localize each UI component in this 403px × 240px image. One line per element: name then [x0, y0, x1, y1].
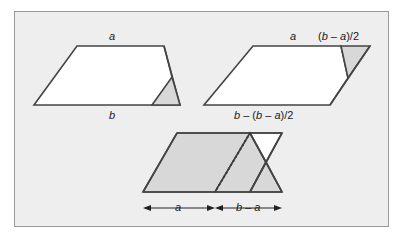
label-right-bottom: b – (b – a)/2: [234, 110, 293, 121]
left-trapezoid-group: [34, 46, 180, 105]
dim-arrowhead-bma-right: [274, 205, 282, 211]
label-left-top-a: a: [109, 31, 115, 42]
figure-root: a b a (b – a)/2 b – (b – a)/2 a b – a: [0, 0, 403, 240]
right-parallelogram-body: [204, 46, 348, 105]
label-dim-b-minus-a: b – a: [236, 202, 260, 213]
label-dim-a: a: [175, 202, 181, 213]
label-left-bottom-b: b: [109, 110, 115, 121]
dimension-arrows-group: [143, 205, 282, 211]
label-right-corner: (b – a)/2: [318, 31, 359, 42]
bottom-figure-group: [143, 133, 282, 192]
dim-arrowhead-a-right: [207, 205, 215, 211]
dim-arrowhead-bma-left: [215, 205, 223, 211]
right-parallelogram-group: [204, 46, 370, 105]
label-right-top-a: a: [290, 31, 296, 42]
dim-arrowhead-a-left: [143, 205, 151, 211]
